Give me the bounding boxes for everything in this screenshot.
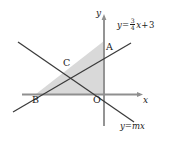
point-label-o: O	[93, 95, 101, 105]
equation-constant: 3	[149, 21, 155, 30]
equation-plus-sign: +	[141, 21, 149, 30]
point-label-b: B	[32, 95, 39, 105]
point-label-c: C	[63, 58, 70, 68]
geometry-figure: y x A B C O y=34x+3 y=mx	[0, 0, 173, 141]
point-label-a: A	[106, 42, 113, 52]
equation-label-line1: y=34x+3	[117, 18, 155, 32]
equation-label-line2: y=mx	[120, 122, 145, 131]
fraction-numerator: 3	[130, 18, 135, 25]
x-axis-label: x	[143, 96, 148, 105]
fraction-denominator: 4	[130, 25, 135, 32]
equation-equals-sign: =	[122, 21, 130, 30]
line-y-equals-three-fourths-x-plus-three	[13, 43, 131, 112]
fraction-three-fourths: 34	[130, 18, 135, 32]
y-axis-label: y	[96, 9, 101, 18]
line-y-equals-mx	[18, 42, 134, 122]
shaded-triangle-region	[36, 41, 104, 94]
